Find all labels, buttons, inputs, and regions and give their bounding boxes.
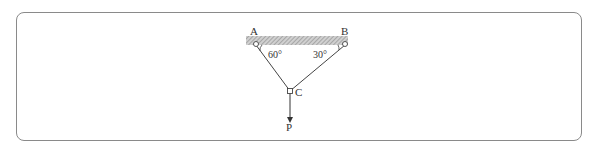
pin-B: [343, 42, 348, 47]
angle-arc-A: [260, 45, 262, 51]
angle-label-B: 30°: [313, 49, 327, 60]
pin-A: [254, 42, 259, 47]
label-P: P: [286, 121, 292, 133]
angle-label-A: 60°: [268, 49, 282, 60]
label-C: C: [295, 86, 302, 98]
joint-C: [288, 89, 293, 94]
label-B: B: [341, 25, 348, 37]
statics-diagram: A B C P 60° 30°: [0, 0, 590, 148]
angle-arc-B: [338, 45, 339, 50]
label-A: A: [250, 25, 258, 37]
ceiling-beam: [246, 36, 348, 45]
